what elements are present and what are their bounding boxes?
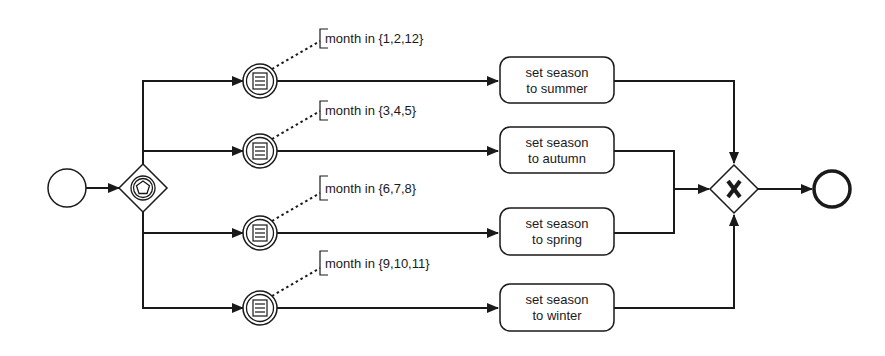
condition-annotation-1: month in {1,2,12}: [325, 31, 424, 46]
association-1: [272, 41, 320, 69]
branch-2: month in {3,4,5} set season to autumn: [243, 101, 614, 173]
sequence-flow-branch-4: [143, 212, 243, 308]
association-4: [272, 268, 320, 296]
svg-text:to autumn: to autumn: [528, 151, 586, 166]
end-event[interactable]: [814, 171, 850, 207]
start-event[interactable]: [48, 169, 86, 207]
sequence-flow-merge-2-3: [614, 151, 674, 233]
svg-text:set season: set season: [526, 292, 589, 307]
conditional-document-icon: [253, 225, 267, 241]
end-event-circle-icon: [814, 171, 850, 207]
svg-text:set season: set season: [526, 216, 589, 231]
condition-annotation-2: month in {3,4,5}: [325, 103, 417, 118]
task-set-autumn[interactable]: set season to autumn: [500, 127, 614, 173]
conditional-event-1[interactable]: [243, 64, 277, 98]
svg-text:to winter: to winter: [532, 308, 582, 323]
condition-annotation-3: month in {6,7,8}: [325, 181, 417, 196]
branch-1: month in {1,2,12} set season to summer: [243, 29, 614, 103]
association-2: [272, 111, 320, 139]
conditional-event-4[interactable]: [243, 291, 277, 325]
task-set-summer[interactable]: set season to summer: [500, 57, 614, 103]
svg-text:set season: set season: [526, 135, 589, 150]
conditional-document-icon: [253, 73, 267, 89]
branch-3: month in {6,7,8} set season to spring: [243, 176, 614, 255]
task-set-winter[interactable]: set season to winter: [500, 284, 614, 331]
svg-text:set season: set season: [526, 65, 589, 80]
event-based-gateway[interactable]: [119, 164, 167, 212]
task-set-spring[interactable]: set season to spring: [500, 208, 614, 255]
association-3: [272, 193, 320, 221]
conditional-event-2[interactable]: [243, 134, 277, 168]
condition-annotation-4: month in {9,10,11}: [325, 256, 430, 271]
conditional-document-icon: [253, 143, 267, 159]
branch-4: month in {9,10,11} set season to winter: [243, 251, 614, 331]
conditional-event-3[interactable]: [243, 216, 277, 250]
svg-text:to spring: to spring: [532, 232, 582, 247]
bpmn-diagram: month in {1,2,12} set season to summer m…: [0, 0, 885, 356]
exclusive-gateway[interactable]: [710, 165, 758, 213]
conditional-document-icon: [253, 300, 267, 316]
start-event-circle-icon: [48, 169, 86, 207]
svg-text:to summer: to summer: [526, 81, 588, 96]
